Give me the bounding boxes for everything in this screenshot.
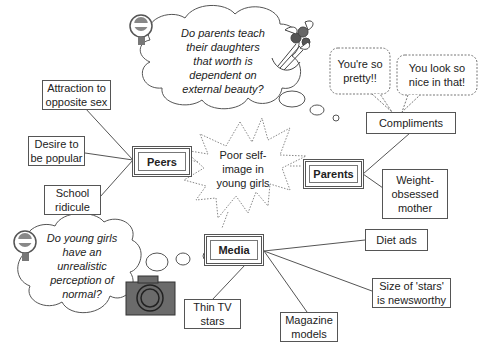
connector-media-size <box>264 251 372 291</box>
thought-text-bottom: Do young girls have an unrealistic perce… <box>34 231 130 301</box>
connector-parents-mother <box>363 174 383 188</box>
connector-media-diet <box>264 240 365 251</box>
media-item-magazine: Magazine models <box>280 312 338 342</box>
connector-peers-attraction <box>85 108 133 160</box>
speech-text-left: You're so pretty!! <box>330 57 390 85</box>
thought-text-top: Do parents teach their daughters that wo… <box>158 26 288 96</box>
connector-media-magazine <box>264 251 307 312</box>
connector-parents-compliments <box>363 133 410 174</box>
peers-item-popular: Desire to be popular <box>28 136 85 166</box>
media-item-size-stars: Size of 'stars' is newsworthy <box>372 278 451 308</box>
peers-item-ridicule: School ridicule <box>44 185 101 215</box>
connector-peers-popular <box>85 153 133 160</box>
hub-parents: Parents <box>303 159 364 189</box>
camera-icon <box>126 276 175 315</box>
parents-item-compliments: Compliments <box>366 112 456 134</box>
hub-peers: Peers <box>132 146 192 177</box>
hub-media: Media <box>204 234 264 266</box>
speech-text-right: You look so nice in that! <box>397 61 477 89</box>
media-item-thin-tv: Thin TV stars <box>184 299 241 329</box>
central-topic: Poor self- image in young girls <box>206 148 280 190</box>
connector-media-tv <box>212 265 245 300</box>
peers-item-attraction: Attraction to opposite sex <box>42 80 111 110</box>
connector-peers-ridicule <box>100 160 133 197</box>
media-item-diet-ads: Diet ads <box>365 229 428 251</box>
parents-item-mother: Weight- obsessed mother <box>382 169 448 219</box>
